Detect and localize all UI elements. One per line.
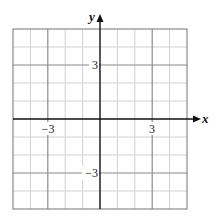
x-tick-label-3: 3 [149,122,155,136]
x-axis-label: x [201,111,209,126]
x-tick-label-neg3: −3 [42,122,55,136]
coordinate-plane: x y −3 3 3 −3 [0,0,216,219]
y-tick-label-neg3: −3 [85,166,98,180]
y-axis-arrow-icon [97,14,104,22]
y-tick-label-3: 3 [92,58,98,72]
x-axis-arrow-icon [193,116,201,123]
y-axis-label: y [87,9,95,24]
